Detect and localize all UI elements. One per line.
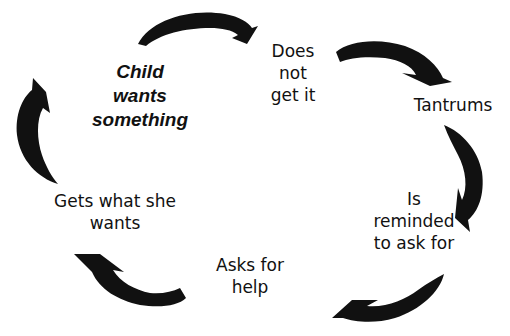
node-line: Child bbox=[75, 60, 205, 84]
node-does-not-get-it: Does not get it bbox=[258, 40, 328, 106]
arrow-asks-for-help-to-gets-what-she-wants bbox=[74, 254, 186, 306]
node-line: Asks for bbox=[205, 254, 295, 276]
node-gets-what-she-wants: Gets what she wants bbox=[35, 190, 195, 234]
node-line: Gets what she bbox=[35, 190, 195, 212]
node-line: reminded bbox=[354, 210, 474, 232]
arrow-does-not-get-to-tantrums bbox=[336, 41, 452, 86]
node-line: not bbox=[258, 62, 328, 84]
node-line: get it bbox=[258, 84, 328, 106]
node-line: wants bbox=[35, 212, 195, 234]
arrow-is-reminded-to-asks-for-help bbox=[332, 274, 444, 322]
node-line: Tantrums bbox=[398, 94, 508, 116]
node-line: something bbox=[75, 108, 205, 132]
node-asks-for-help: Asks for help bbox=[205, 254, 295, 298]
node-line: Does bbox=[258, 40, 328, 62]
node-line: wants bbox=[75, 84, 205, 108]
node-line: Is bbox=[354, 188, 474, 210]
node-line: help bbox=[205, 276, 295, 298]
node-child-wants-something: Child wants something bbox=[75, 60, 205, 132]
node-is-reminded-to-ask-for: Is reminded to ask for bbox=[354, 188, 474, 254]
arrow-gets-what-she-wants-to-child-wants bbox=[17, 78, 58, 184]
arrow-child-to-does-not-get bbox=[138, 12, 258, 46]
cycle-diagram: Child wants something Does not get it Ta… bbox=[0, 0, 510, 336]
node-line: to ask for bbox=[354, 232, 474, 254]
node-tantrums: Tantrums bbox=[398, 94, 508, 116]
